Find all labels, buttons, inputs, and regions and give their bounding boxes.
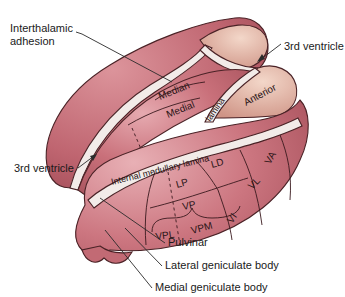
label-3rd-ventricle-left: 3rd ventricle: [14, 162, 74, 174]
label-lateral-geniculate-body: Lateral geniculate body: [165, 259, 279, 271]
label-medial-geniculate-body: Medial geniculate body: [155, 281, 268, 293]
label-3rd-ventricle-top: 3rd ventricle: [284, 40, 344, 52]
label-interthalamic-adhesion-1: Interthalamic: [10, 22, 73, 34]
thalamus-diagram: Median Medial Anterior lamina Internal m…: [0, 0, 345, 297]
label-interthalamic-adhesion-2: adhesion: [10, 35, 55, 47]
label-pulvinar: Pulvinar: [168, 236, 208, 248]
label-vp: VP: [181, 199, 196, 212]
